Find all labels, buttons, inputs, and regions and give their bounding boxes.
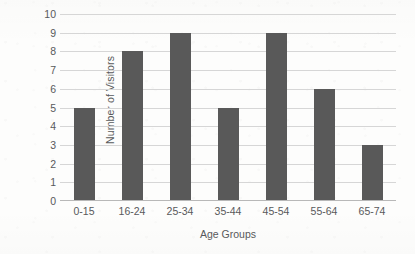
y-axis-tick-label: 0 <box>30 196 56 207</box>
y-axis-tick-label: 10 <box>30 9 56 20</box>
bar-slot <box>108 14 156 201</box>
x-axis-tick-label: 25-34 <box>156 205 204 217</box>
bar-slot <box>156 14 204 201</box>
bar-slot <box>300 14 348 201</box>
y-axis-tick-label: 5 <box>30 102 56 113</box>
bar[interactable] <box>266 33 287 201</box>
y-axis-tick-label: 4 <box>30 121 56 132</box>
bar[interactable] <box>218 108 239 202</box>
bar-chart-figure: Number of Visitors 012345678910 0-1516-2… <box>0 0 415 254</box>
bars-group <box>60 14 396 201</box>
bar[interactable] <box>170 33 191 201</box>
y-axis-tick-label: 2 <box>30 158 56 169</box>
x-axis-tick-label: 0-15 <box>60 205 108 217</box>
bar[interactable] <box>122 51 143 201</box>
y-axis-tick-label: 7 <box>30 65 56 76</box>
bar[interactable] <box>314 89 335 201</box>
x-axis-tick-label: 55-64 <box>300 205 348 217</box>
y-axis-tick-label: 8 <box>30 46 56 57</box>
bar-slot <box>348 14 396 201</box>
x-axis-tick-label: 35-44 <box>204 205 252 217</box>
plot-area <box>60 14 396 201</box>
bar[interactable] <box>74 108 95 202</box>
x-axis-tick-label: 16-24 <box>108 205 156 217</box>
y-axis-tick-label: 1 <box>30 177 56 188</box>
y-axis-tick-labels: 012345678910 <box>30 14 56 201</box>
bar[interactable] <box>362 145 383 201</box>
bar-slot <box>252 14 300 201</box>
y-axis-tick-label: 3 <box>30 140 56 151</box>
x-axis-line <box>60 200 396 201</box>
x-axis-tick-label: 65-74 <box>348 205 396 217</box>
x-axis-tick-labels: 0-1516-2425-3435-4445-5455-6465-74 <box>60 205 396 217</box>
bar-slot <box>60 14 108 201</box>
y-axis-tick-label: 6 <box>30 84 56 95</box>
y-axis-tick-label: 9 <box>30 27 56 38</box>
x-axis-tick-label: 45-54 <box>252 205 300 217</box>
x-axis-title: Age Groups <box>60 228 396 240</box>
bar-slot <box>204 14 252 201</box>
